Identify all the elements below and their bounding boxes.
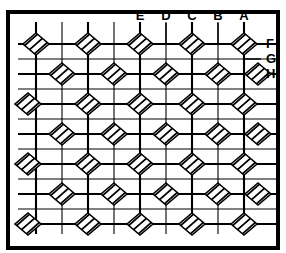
row-label-H: H: [266, 66, 275, 81]
row-label-F: F: [266, 36, 274, 51]
column-label-D: D: [161, 8, 170, 23]
figure-container: EDCBAFGH: [0, 0, 286, 253]
column-label-E: E: [136, 8, 145, 23]
lattice-diagram: EDCBAFGH: [0, 0, 286, 253]
column-label-B: B: [213, 8, 222, 23]
column-label-C: C: [187, 8, 197, 23]
row-label-G: G: [266, 51, 276, 66]
column-label-A: A: [239, 8, 249, 23]
